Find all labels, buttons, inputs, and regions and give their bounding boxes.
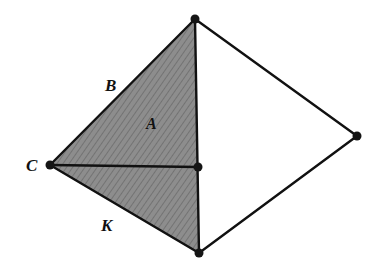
- label-B: B: [104, 76, 116, 95]
- shaded-region: [50, 19, 199, 253]
- label-K: K: [100, 216, 114, 235]
- vertex-C: [46, 161, 55, 170]
- kite-diagram: B A C K: [0, 0, 386, 267]
- vertex-right: [353, 132, 362, 141]
- vertex-middle: [194, 163, 203, 172]
- edge-right-bottom: [199, 136, 357, 253]
- vertex-bottom: [195, 249, 204, 258]
- vertex-top: [191, 15, 200, 24]
- label-C: C: [26, 156, 38, 175]
- label-A: A: [145, 115, 157, 132]
- edge-top-right: [195, 19, 357, 136]
